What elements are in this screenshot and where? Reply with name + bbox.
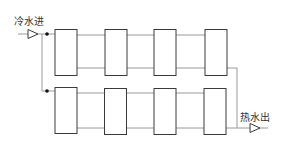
heater-unit-bottom-2 [105, 89, 127, 135]
junction-dot-top [45, 32, 49, 36]
outlet-arrow-icon [250, 124, 260, 133]
heater-unit-top-3 [154, 30, 176, 76]
heater-unit-bottom-1 [55, 88, 77, 134]
outlet-label: 热水出 [240, 112, 270, 123]
heater-unit-bottom-3 [154, 89, 176, 135]
heater-unit-bottom-4 [204, 89, 226, 135]
heater-unit-top-4 [205, 30, 227, 76]
heater-unit-top-1 [55, 30, 77, 76]
inlet-arrow-icon [28, 30, 38, 39]
inlet-label: 冷水进 [14, 16, 44, 27]
heater-unit-top-2 [105, 30, 127, 76]
junction-dot-bottom [45, 89, 49, 93]
heater-units [55, 30, 227, 135]
